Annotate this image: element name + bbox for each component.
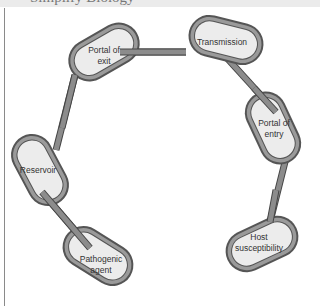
link-label: agent [90,265,112,275]
link-label: Host [250,232,268,242]
link-label: Portal of [88,45,120,55]
link-portal-of-entry: Portal of entry [238,85,308,172]
link-label: susceptibility [235,243,284,253]
link-label: entry [265,129,285,139]
link-label: Transmission [197,37,247,47]
chain-of-infection-diagram: Portal of exit Transmission Portal of en… [0,0,320,306]
link-label: Reservoir [20,165,57,175]
link-transmission: Transmission [184,10,268,69]
link-reservoir: Reservoir [4,127,77,214]
link-label: Portal of [258,118,290,128]
link-label: exit [97,56,111,66]
link-host-susceptibility: Host susceptibility [219,209,306,279]
link-label: Pathogenic [80,254,123,264]
link-pathogenic-agent: Pathogenic agent [55,218,142,294]
